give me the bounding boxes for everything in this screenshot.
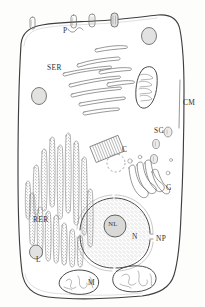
label-pinocytotic-vesicle: P (63, 26, 68, 35)
secretory-granule (153, 139, 160, 148)
label-nuclear-pore: NP (156, 234, 166, 243)
cell-diagram-canvas: P SER CM SG C G RER NL N NP L M (0, 0, 205, 307)
label-nucleus: N (132, 232, 138, 241)
secretory-granule (164, 127, 172, 137)
pinocytotic-vesicle (111, 13, 118, 27)
label-golgi: G (166, 183, 172, 192)
label-lysosome: L (36, 255, 41, 264)
label-nucleolus: NL (108, 220, 118, 227)
label-secretory-granules: SG (154, 126, 165, 135)
vacuole (142, 28, 157, 45)
label-smooth-er: SER (47, 63, 62, 72)
cell-diagram-svg: P SER CM SG C G RER NL N NP L M (0, 0, 205, 307)
label-rough-er: RER (33, 215, 49, 224)
label-centriole: C (122, 145, 127, 154)
label-mitochondrion: M (88, 278, 95, 287)
vacuole (32, 88, 47, 105)
secretory-granule (150, 155, 157, 164)
label-cell-membrane: CM (183, 98, 195, 107)
